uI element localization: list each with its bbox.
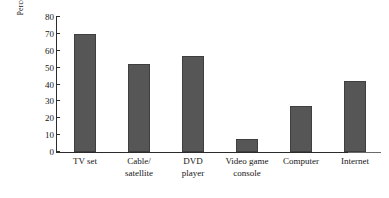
y-axis-tick: 10 xyxy=(0,129,60,141)
x-axis-label-line: player xyxy=(162,168,224,180)
x-axis-label-line: Cable/ xyxy=(108,156,170,168)
bar-slot xyxy=(220,16,274,152)
bar-slot xyxy=(274,16,328,152)
x-axis-label: Internet xyxy=(324,156,386,168)
x-axis-label: Cable/satellite xyxy=(108,156,170,179)
x-axis-label: TV set xyxy=(54,156,116,168)
bar-slot xyxy=(112,16,166,152)
plot-area: 01020304050607080 TV setCable/satelliteD… xyxy=(0,0,389,198)
x-axis-label-line: Video game xyxy=(216,156,278,168)
x-axis-label-line: Internet xyxy=(324,156,386,168)
bar-slot xyxy=(166,16,220,152)
x-axis-label-line: Computer xyxy=(270,156,332,168)
x-axis-label-line: TV set xyxy=(54,156,116,168)
y-axis-tick: 0 xyxy=(0,146,60,158)
x-axis-label-line: satellite xyxy=(108,168,170,180)
bar-slot xyxy=(328,16,382,152)
bar xyxy=(128,64,150,152)
y-axis-tick: 20 xyxy=(0,112,60,124)
x-axis-label: DVDplayer xyxy=(162,156,224,179)
y-axis-tick: 40 xyxy=(0,79,60,91)
bar xyxy=(236,139,258,153)
bar-slot xyxy=(58,16,112,152)
x-axis-labels: TV setCable/satelliteDVDplayerVideo game… xyxy=(56,156,381,196)
bar xyxy=(290,106,312,152)
x-axis-label-line: DVD xyxy=(162,156,224,168)
y-axis-tick: 50 xyxy=(0,62,60,74)
x-axis-label: Computer xyxy=(270,156,332,168)
x-axis-label: Video gameconsole xyxy=(216,156,278,179)
bar xyxy=(182,56,204,152)
y-axis-ticks: 01020304050607080 xyxy=(0,0,60,198)
x-axis-label-line: console xyxy=(216,168,278,180)
y-axis-tick: 60 xyxy=(0,45,60,57)
bar-chart: Percentage of parents 01020304050607080 … xyxy=(0,0,389,198)
bar xyxy=(74,34,96,152)
y-axis-tick: 30 xyxy=(0,95,60,107)
y-axis-tick: 70 xyxy=(0,28,60,40)
bar xyxy=(344,81,366,152)
y-axis-tick: 80 xyxy=(0,11,60,23)
